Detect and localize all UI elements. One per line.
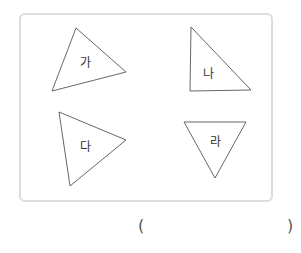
answer-close-paren: ) — [287, 218, 293, 234]
triangle-da — [59, 112, 126, 186]
triangle-ga-label: 가 — [80, 57, 91, 69]
triangle-ra-label: 라 — [210, 136, 221, 148]
triangle-ra — [184, 122, 246, 178]
answer-open-paren: ( — [138, 218, 144, 234]
triangle-na-label: 나 — [203, 68, 214, 80]
answer-blank[interactable] — [150, 218, 285, 236]
triangle-na — [190, 27, 251, 91]
triangle-da-label: 다 — [80, 141, 91, 153]
triangles-figure — [0, 0, 301, 253]
